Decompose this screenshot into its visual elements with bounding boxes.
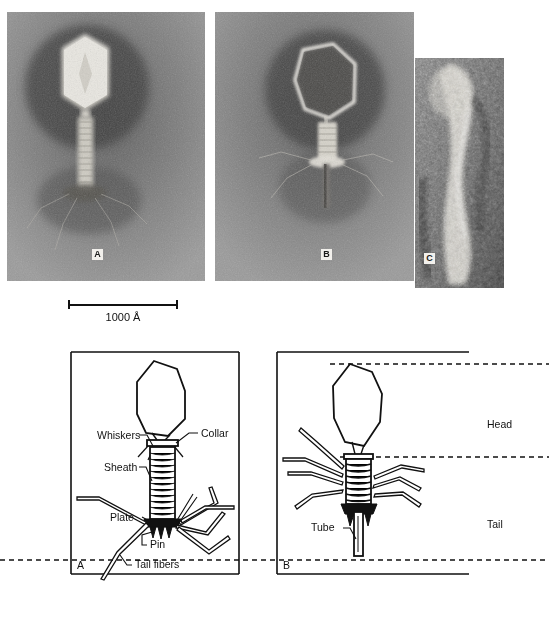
scale-bar-cap-left xyxy=(68,300,70,309)
micrograph-panel-b: B xyxy=(215,12,414,281)
label-collar: Collar xyxy=(201,427,229,439)
label-sheath: Sheath xyxy=(104,461,137,473)
micrograph-tag-a: A xyxy=(92,249,103,260)
scale-bar: 1000 Å xyxy=(68,300,178,328)
label-whiskers: Whiskers xyxy=(97,429,140,441)
micrograph-b-image xyxy=(215,12,414,281)
scale-bar-label: 1000 Å xyxy=(68,311,178,323)
diagram-a-head xyxy=(137,361,185,436)
diagram-svg: .ln { stroke:#111; fill:none; } .fr { st… xyxy=(0,336,549,627)
scale-bar-cap-right xyxy=(176,300,178,309)
label-plate: Plate xyxy=(110,511,134,523)
scale-bar-shaft xyxy=(68,304,178,306)
scale-bar-rule xyxy=(68,300,178,309)
micrograph-panel-a: A xyxy=(7,12,205,281)
diagram-area: .ln { stroke:#111; fill:none; } .fr { st… xyxy=(0,336,549,627)
diagram-tag-a: A xyxy=(77,559,84,571)
micrograph-tag-b: B xyxy=(321,249,332,260)
label-tube: Tube xyxy=(311,521,335,533)
zone-label-head: Head xyxy=(487,418,512,430)
micrograph-a-image xyxy=(7,12,205,281)
zone-label-tail: Tail xyxy=(487,518,503,530)
diagram-b-phage xyxy=(283,364,424,556)
diagram-zone-labels: Head Tail xyxy=(487,418,512,530)
diagram-b-zone-dividers xyxy=(0,364,549,560)
figure-root: A xyxy=(0,0,549,627)
micrograph-panel-c: C xyxy=(415,58,504,288)
diagram-tag-b: B xyxy=(283,559,290,571)
micrograph-tag-c: C xyxy=(424,253,435,264)
label-pin: Pin xyxy=(150,538,165,550)
diagram-b-head xyxy=(333,364,382,446)
